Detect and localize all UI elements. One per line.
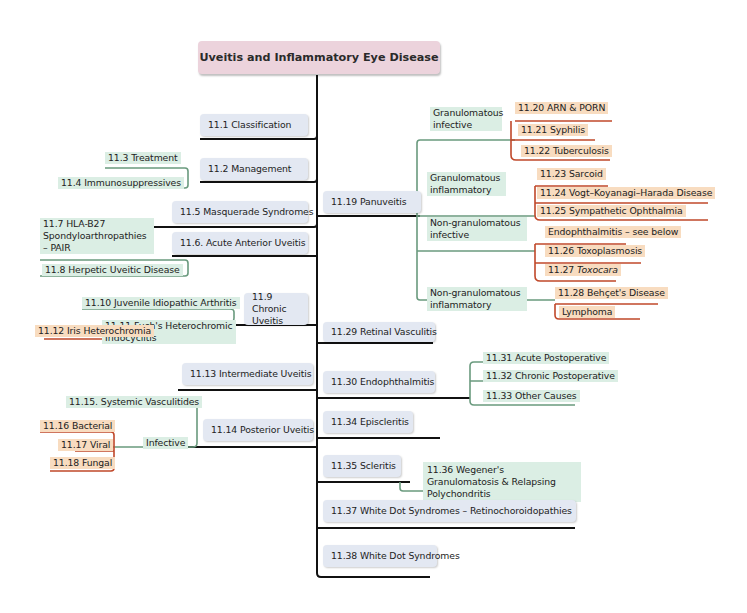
mind-map: Uveitis and Inflammatory Eye Disease 11.… (0, 0, 747, 613)
branch-classification[interactable]: 11.1 Classification (200, 114, 308, 136)
node-lymphoma[interactable]: Lymphoma (559, 306, 615, 318)
node-behcets[interactable]: 11.28 Behçet's Disease (555, 287, 668, 299)
node-wegeners[interactable]: 11.36 Wegener's Granulomatosis & Relapsi… (423, 462, 581, 502)
node-jia[interactable]: 11.10 Juvenile Idiopathic Arthritis (82, 297, 240, 309)
node-toxocara-number: 11.27 (548, 264, 574, 275)
node-infective[interactable]: Infective (143, 437, 188, 449)
group-granulomatous-infective[interactable]: Granulomatous infective (430, 107, 502, 131)
node-acute-postoperative[interactable]: 11.31 Acute Postoperative (483, 352, 609, 364)
node-toxocara[interactable]: 11.27 Toxocara (545, 264, 621, 276)
node-syphilis[interactable]: 11.21 Syphilis (518, 124, 588, 136)
node-herpetic-uveitic[interactable]: 11.8 Herpetic Uveitic Disease (42, 264, 183, 276)
group-non-granulomatous-infective[interactable]: Non-granulomatous infective (427, 217, 527, 241)
node-tuberculosis[interactable]: 11.22 Tuberculosis (521, 145, 612, 157)
node-sarcoid[interactable]: 11.23 Sarcoid (537, 168, 606, 180)
node-viral[interactable]: 11.17 Viral (58, 439, 113, 451)
branch-management[interactable]: 11.2 Management (200, 158, 308, 180)
node-treatment[interactable]: 11.3 Treatment (105, 152, 181, 164)
node-vkh[interactable]: 11.24 Vogt–Koyanagi–Harada Disease (537, 187, 715, 199)
node-immunosuppressives[interactable]: 11.4 Immunosuppressives (58, 177, 184, 189)
node-arn-porn[interactable]: 11.20 ARN & PORN (515, 102, 608, 114)
node-bacterial[interactable]: 11.16 Bacterial (40, 420, 115, 432)
branch-endophthalmitis[interactable]: 11.30 Endophthalmitis (323, 371, 435, 393)
node-fungal[interactable]: 11.18 Fungal (50, 457, 115, 469)
branch-masquerade[interactable]: 11.5 Masquerade Syndromes (172, 201, 308, 223)
branch-chronic-uveitis[interactable]: 11.9 Chronic Uveitis (244, 293, 308, 325)
node-toxoplasmosis[interactable]: 11.26 Toxoplasmosis (545, 245, 645, 257)
root-title: Uveitis and Inflammatory Eye Disease (198, 41, 440, 74)
node-hla-b27[interactable]: 11.7 HLA-B27 Spondyloarthropathies – PAI… (40, 218, 154, 254)
group-non-granulomatous-inflammatory[interactable]: Non-granulomatous inflammatory (427, 287, 527, 311)
node-sympathetic-ophthalmia[interactable]: 11.25 Sympathetic Ophthalmia (537, 205, 686, 217)
branch-episcleritis[interactable]: 11.34 Episcleritis (323, 411, 413, 433)
node-other-causes[interactable]: 11.33 Other Causes (483, 390, 580, 402)
branch-retinal-vasculitis[interactable]: 11.29 Retinal Vasculitis (323, 322, 435, 342)
branch-scleritis[interactable]: 11.35 Scleritis (323, 455, 401, 477)
branch-posterior-uveitis[interactable]: 11.14 Posterior Uveitis (203, 419, 313, 441)
node-toxocara-name: Toxocara (577, 264, 618, 275)
branch-intermediate-uveitis[interactable]: 11.13 Intermediate Uveitis (182, 363, 313, 385)
group-granulomatous-inflammatory[interactable]: Granulomatous inflammatory (427, 172, 506, 196)
node-chronic-postoperative[interactable]: 11.32 Chronic Postoperative (483, 370, 618, 382)
node-endophthalmitis-see-below[interactable]: Endophthalmitis – see below (545, 226, 681, 238)
branch-acute-anterior-uveitis[interactable]: 11.6. Acute Anterior Uveitis (172, 232, 308, 254)
branch-panuveitis[interactable]: 11.19 Panuveitis (323, 191, 421, 213)
branch-white-dot-syndromes[interactable]: 11.38 White Dot Syndromes (323, 545, 437, 567)
branch-white-dot-retinochoroidopathies[interactable]: 11.37 White Dot Syndromes – Retinochoroi… (323, 500, 576, 522)
node-iris-heterochromia[interactable]: 11.12 Iris Heterochromia (35, 325, 154, 337)
node-systemic-vasculitides[interactable]: 11.15. Systemic Vasculitides (66, 396, 202, 408)
